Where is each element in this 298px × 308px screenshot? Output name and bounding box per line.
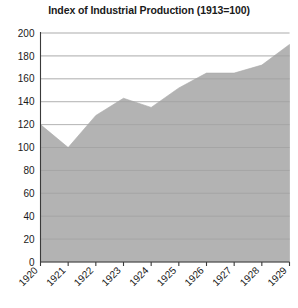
area-fill-path bbox=[41, 44, 290, 262]
x-tick-label: 1923 bbox=[99, 264, 123, 288]
x-tick-label: 1925 bbox=[155, 264, 179, 288]
x-tick-label: 1927 bbox=[210, 264, 234, 288]
y-tick-label: 160 bbox=[18, 73, 35, 84]
y-tick-label: 180 bbox=[18, 51, 35, 62]
x-tick-label: 1926 bbox=[182, 264, 206, 288]
y-tick-label: 40 bbox=[23, 211, 35, 222]
y-tick-label: 80 bbox=[23, 165, 35, 176]
x-axis-tick-labels: 1920192119221923192419251926192719281929 bbox=[16, 262, 289, 288]
x-tick-label: 1928 bbox=[238, 264, 262, 288]
x-tick-label: 1920 bbox=[16, 264, 40, 288]
y-tick-label: 200 bbox=[18, 28, 35, 39]
y-tick-label: 60 bbox=[23, 188, 35, 199]
x-tick-label: 1921 bbox=[44, 264, 68, 288]
y-tick-label: 100 bbox=[18, 142, 35, 153]
chart-container: Index of Industrial Production (1913=100… bbox=[0, 0, 298, 308]
x-tick-label: 1922 bbox=[72, 264, 96, 288]
y-axis-tick-labels: 020406080100120140160180200 bbox=[18, 28, 35, 268]
x-tick-label: 1924 bbox=[127, 264, 151, 288]
chart-plot-area: 020406080100120140160180200 192019211922… bbox=[0, 0, 298, 308]
area-series bbox=[41, 33, 290, 262]
y-tick-label: 140 bbox=[18, 96, 35, 107]
x-tick-label: 1929 bbox=[265, 264, 289, 288]
y-tick-label: 20 bbox=[23, 234, 35, 245]
y-tick-label: 120 bbox=[18, 119, 35, 130]
